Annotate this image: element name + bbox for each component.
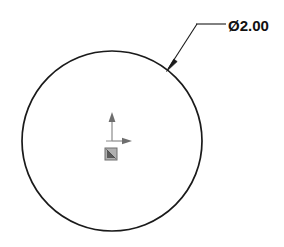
cad-drawing-canvas: Ø2.00 bbox=[0, 0, 284, 247]
diameter-dimension-text[interactable]: Ø2.00 bbox=[228, 17, 269, 34]
drawing-background bbox=[0, 0, 284, 247]
